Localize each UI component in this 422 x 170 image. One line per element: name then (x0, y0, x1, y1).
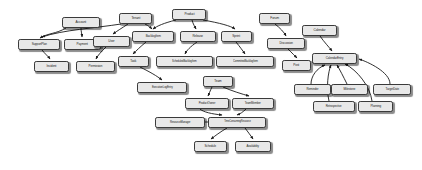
node-calendar-entry[interactable]: CalendarEntry (312, 53, 357, 64)
node-label-support-plan: SupportPlan (31, 43, 46, 46)
node-calendar[interactable]: Calendar (302, 25, 337, 36)
diagram-canvas: AccountTenantProductForumCalendarSupport… (0, 0, 422, 170)
node-scheduled-backlog-item[interactable]: ScheduledBacklogItem (156, 56, 213, 67)
node-label-scheduled-backlog-item: ScheduledBacklogItem (172, 60, 196, 63)
node-label-task: Task (130, 60, 136, 63)
edge-planning-calendar-entry (345, 64, 372, 101)
node-committed-backlog-item[interactable]: CommittedBacklogItem (216, 56, 274, 67)
node-backlog-item[interactable]: BacklogItem (132, 31, 174, 42)
edge-product-owner-tcr (200, 109, 222, 115)
edge-product-sprint (203, 20, 235, 29)
edge-backlog-item-task (133, 42, 146, 54)
edge-reminder-calendar-entry (311, 65, 325, 84)
node-label-calendar: Calendar (314, 29, 326, 32)
node-execution-log-entry[interactable]: ExecutionLogEntry (137, 82, 187, 93)
node-label-sprint: Sprint (233, 35, 241, 38)
edge-product-release (192, 20, 196, 29)
edge-forum-discussion (275, 24, 286, 36)
node-label-calendar-entry: CalendarEntry (326, 57, 344, 60)
node-planning[interactable]: Planning (358, 101, 393, 112)
node-label-payment: Payment (77, 43, 88, 46)
node-label-permission: Permission (89, 65, 103, 68)
node-label-milestone: Milestone (344, 88, 356, 91)
node-account[interactable]: Account (62, 17, 100, 28)
edge-discussion-post (288, 49, 297, 58)
node-label-forum: Forum (270, 17, 279, 20)
node-team-member[interactable]: TeamMember (232, 98, 274, 109)
node-release[interactable]: Release (180, 31, 216, 42)
edge-release-scheduled (185, 42, 197, 54)
node-label-schedule: Schedule (205, 145, 217, 148)
node-reminder[interactable]: Reminder (294, 84, 331, 95)
node-label-execution-log-entry: ExecutionLogEntry (152, 86, 173, 89)
node-time-consuming-resource[interactable]: TimeConsumingResource (208, 117, 266, 128)
node-label-team-member: TeamMember (245, 102, 261, 105)
node-label-product-owner: ProductOwner (199, 102, 216, 105)
edge-target-calendar-entry (359, 59, 390, 84)
edge-calendar-calendar-entry (320, 36, 332, 51)
node-forum[interactable]: Forum (259, 13, 290, 24)
node-label-discussion: Discussion (279, 42, 292, 45)
edge-product-backlog-item (153, 20, 176, 29)
node-availability[interactable]: Availability (235, 141, 271, 152)
edge-team-product-owner (208, 87, 212, 96)
edge-task-execution-log (140, 67, 162, 80)
node-label-time-consuming-resource: TimeConsumingResource (224, 121, 251, 124)
node-label-backlog-item: BacklogItem (145, 35, 160, 38)
node-schedule[interactable]: Schedule (194, 141, 227, 152)
node-label-target-date: TargetDate (385, 88, 398, 91)
node-label-committed-backlog-item: CommittedBacklogItem (233, 60, 258, 63)
node-label-planning: Planning (370, 105, 381, 108)
edge-tcr-availability (245, 128, 253, 139)
node-post[interactable]: Post (282, 60, 311, 71)
node-label-post: Post (294, 64, 300, 67)
node-sprint[interactable]: Sprint (221, 31, 252, 42)
edge-tenant-user (113, 24, 128, 34)
node-team[interactable]: Team (203, 76, 233, 87)
node-resource-manager[interactable]: ResourceManager (155, 117, 205, 128)
node-target-date[interactable]: TargetDate (373, 84, 411, 95)
node-permission[interactable]: Permission (76, 61, 115, 72)
edge-retro-calendar-entry (328, 65, 331, 101)
node-support-plan[interactable]: SupportPlan (18, 39, 60, 50)
edge-tcr-schedule (211, 128, 227, 139)
node-label-user: User (108, 40, 114, 43)
node-milestone[interactable]: Milestone (331, 84, 368, 95)
edge-support-plan-incident (42, 50, 50, 59)
edge-team-member-tcr (237, 109, 246, 115)
node-label-incident: Incident (47, 65, 57, 68)
edge-sprint-committed (236, 42, 245, 54)
node-label-product: Product (184, 13, 194, 16)
node-label-team: Team (214, 80, 221, 83)
node-incident[interactable]: Incident (34, 61, 69, 72)
node-label-account: Account (76, 21, 87, 24)
edge-team-team-member (223, 87, 249, 96)
node-product[interactable]: Product (172, 9, 206, 20)
node-label-availability: Availability (247, 145, 259, 148)
edge-milestone-calendar-entry (337, 65, 347, 84)
node-label-retrospective: Retrospective (326, 105, 342, 108)
node-user[interactable]: User (93, 36, 130, 47)
node-tenant[interactable]: Tenant (119, 13, 152, 24)
node-retrospective[interactable]: Retrospective (313, 101, 355, 112)
edge-tenant-backlog-item (145, 24, 152, 29)
node-label-tenant: Tenant (131, 17, 140, 20)
node-product-owner[interactable]: ProductOwner (185, 98, 229, 109)
node-label-reminder: Reminder (307, 88, 319, 91)
node-label-release: Release (193, 35, 203, 38)
node-task[interactable]: Task (118, 56, 149, 67)
node-discussion[interactable]: Discussion (267, 38, 305, 49)
node-label-resource-manager: ResourceManager (170, 121, 190, 124)
